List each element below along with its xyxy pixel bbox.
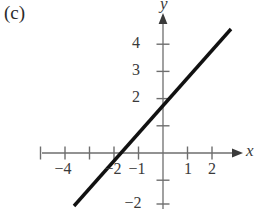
x-tick-label--1: −1 bbox=[123, 160, 151, 178]
graph-figure: (c) y x bbox=[0, 0, 259, 209]
y-tick-label-3: 3 bbox=[126, 61, 146, 79]
x-tick-label--4: −4 bbox=[49, 160, 77, 178]
data-line-y-equals-x-plus-2 bbox=[74, 29, 231, 206]
y-tick-label-4: 4 bbox=[126, 34, 146, 52]
x-axis-arrowhead bbox=[232, 149, 243, 158]
y-axis-arrowhead bbox=[159, 13, 168, 24]
x-axis-label: x bbox=[246, 141, 254, 161]
y-tick-label--2: −2 bbox=[119, 194, 147, 209]
y-tick-label-2: 2 bbox=[126, 88, 146, 106]
x-tick-label-1: 1 bbox=[178, 160, 198, 178]
y-axis-label: y bbox=[160, 0, 168, 14]
x-tick-label-2: 2 bbox=[202, 160, 222, 178]
